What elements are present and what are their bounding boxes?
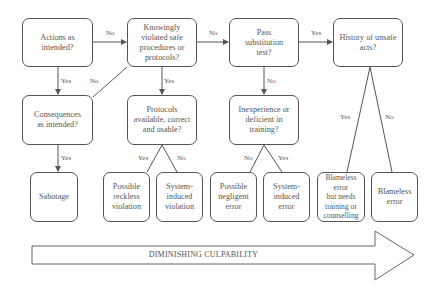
outcome-blameless-error: Blameless error xyxy=(371,172,418,222)
edge-label: Yes xyxy=(311,29,321,37)
node-inexperience: Inexperience or deficient in training? xyxy=(229,95,299,145)
culpability-arrow-label: DIMINISHING CULPABILITY xyxy=(32,250,375,259)
edge-label: No xyxy=(106,29,115,37)
edge-label: No xyxy=(244,154,253,162)
outcome-system-induced-violation: System- induced violation xyxy=(156,172,203,222)
outcome-negligent-error: Possible negligent error xyxy=(210,172,257,222)
node-consequences-intended: Consequences as intended? xyxy=(22,95,93,145)
node-actions-as-intended: Actions as intended? xyxy=(22,18,93,67)
edge-label: No xyxy=(267,77,276,85)
edge-label: No xyxy=(385,113,394,121)
outcome-blameless-needs-training: Blameless error but needs training or co… xyxy=(317,172,365,222)
node-protocols-available: Protocols available, correct and usable? xyxy=(127,95,197,145)
node-substitution-test: Pass substitution test? xyxy=(229,18,299,67)
outcome-sabotage: Sabotage xyxy=(30,172,78,222)
edge-label: Yes xyxy=(61,77,71,85)
edge-label: Yes xyxy=(164,77,174,85)
node-knowingly-violated: Knowingly violated safe procedures or pr… xyxy=(127,18,197,67)
node-history-unsafe-acts: History of unsafe acts? xyxy=(333,18,403,67)
outcome-system-induced-error: System- induced error xyxy=(263,172,310,222)
edge-label: No xyxy=(90,77,99,85)
edge-label: Yes xyxy=(138,154,148,162)
edge-label: No xyxy=(209,29,218,37)
edge-label: Yes xyxy=(278,154,288,162)
edge-label: Yes xyxy=(340,113,350,121)
edge-label: Yes xyxy=(61,154,71,162)
edge-label: No xyxy=(177,154,186,162)
outcome-reckless-violation: Possible reckless violation xyxy=(103,172,150,222)
